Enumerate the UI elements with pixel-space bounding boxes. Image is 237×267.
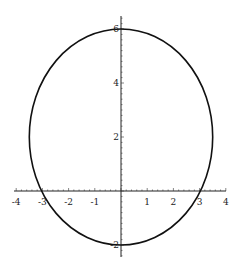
ellipse-plot: -4-3-2-11234 642-2 bbox=[0, 0, 237, 267]
y-tick-label: 2 bbox=[113, 132, 119, 142]
x-tick-label: 4 bbox=[223, 197, 229, 207]
y-tick-label: -2 bbox=[110, 240, 119, 250]
x-tick-label: 2 bbox=[171, 197, 177, 207]
x-tick-label: -3 bbox=[38, 197, 47, 207]
x-tick-label: -2 bbox=[64, 197, 73, 207]
y-tick-labels: 642-2 bbox=[110, 24, 119, 250]
y-tick-label: 4 bbox=[113, 78, 119, 88]
y-tick-label: 6 bbox=[113, 24, 119, 34]
x-tick-label: 1 bbox=[144, 197, 150, 207]
x-tick-label: -4 bbox=[12, 197, 21, 207]
x-tick-label: -1 bbox=[90, 197, 99, 207]
x-axis-ticks bbox=[16, 188, 226, 191]
x-tick-labels: -4-3-2-11234 bbox=[12, 197, 229, 207]
x-tick-label: 3 bbox=[197, 197, 203, 207]
